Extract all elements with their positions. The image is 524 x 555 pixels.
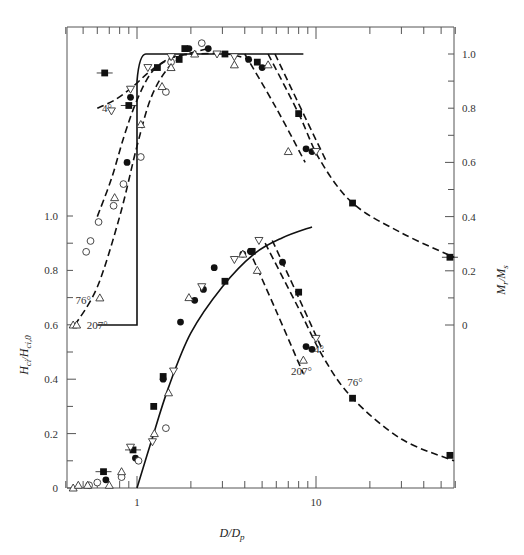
curve-label: 4° <box>314 343 324 355</box>
open-triangle-down-marker <box>144 65 152 72</box>
labels: 11000.20.40.60.81.000.20.40.60.81.04°76°… <box>17 48 510 542</box>
open-circle-marker <box>135 457 142 464</box>
open-triangle-up-marker <box>96 294 104 301</box>
y-tick-label-right: 0 <box>462 319 468 331</box>
open-circle-marker <box>162 425 169 432</box>
open-triangle-up-marker <box>158 83 166 90</box>
x-tick-label: 10 <box>311 496 323 508</box>
curve-label: 207° <box>291 365 312 377</box>
open-triangle-down-marker <box>230 54 238 61</box>
filled-circle-marker <box>247 248 254 255</box>
open-circle-marker <box>110 202 117 209</box>
filled-circle-marker <box>279 259 286 266</box>
filled-square-marker <box>222 278 229 285</box>
filled-square-marker <box>176 56 183 63</box>
y-axis-title-left: Hci/Hci,0 <box>17 335 33 376</box>
filled-square-marker <box>150 403 157 410</box>
open-triangle-up-marker <box>253 266 261 273</box>
filled-square-marker <box>349 395 356 402</box>
plot-frame <box>67 27 454 488</box>
curve-label: 207° <box>87 319 108 331</box>
curve <box>97 49 208 217</box>
filled-circle-marker <box>245 56 252 63</box>
curve <box>268 54 454 257</box>
open-circle-marker <box>87 238 94 245</box>
data-markers <box>69 40 458 491</box>
filled-circle-marker <box>186 45 193 52</box>
filled-circle-marker <box>177 319 184 326</box>
open-triangle-up-marker <box>299 356 307 363</box>
open-circle-marker <box>94 479 101 486</box>
curve <box>275 54 327 162</box>
open-circle-marker <box>198 40 205 47</box>
filled-square-marker <box>154 64 161 71</box>
open-circle-marker <box>137 154 144 161</box>
y-tick-label-left: 0.8 <box>44 264 58 276</box>
filled-circle-marker <box>303 145 310 152</box>
filled-square-marker <box>254 59 261 66</box>
open-triangle-up-marker <box>165 389 173 396</box>
filled-circle-marker <box>124 159 131 166</box>
filled-square-marker <box>295 289 302 296</box>
open-circle-marker <box>95 219 102 226</box>
filled-square-marker <box>295 110 302 117</box>
open-triangle-down-marker <box>255 237 263 244</box>
axis-ticks <box>66 27 456 488</box>
y-tick-label-right: 1.0 <box>462 48 476 60</box>
y-tick-label-left: 0.6 <box>44 319 58 331</box>
open-circle-marker <box>83 248 90 255</box>
y-axis-title-right: Mr/Ms <box>494 265 510 296</box>
open-triangle-up-marker <box>118 468 126 475</box>
open-triangle-up-marker <box>230 61 238 68</box>
curve-label: 4° <box>102 102 112 114</box>
y-tick-label-right: 0.2 <box>462 265 476 277</box>
x-tick-label: 1 <box>134 496 140 508</box>
open-circle-marker <box>120 181 127 188</box>
curves <box>75 49 454 488</box>
open-triangle-up-marker <box>284 148 292 155</box>
filled-circle-marker <box>205 45 212 52</box>
open-triangle-up-marker <box>74 481 82 488</box>
curve-label: 76° <box>347 376 362 388</box>
open-triangle-up-marker <box>111 194 119 201</box>
open-triangle-up-marker <box>185 294 193 301</box>
y-tick-label-left: 0.2 <box>44 428 58 440</box>
y-tick-label-right: 0.4 <box>462 211 476 223</box>
open-triangle-down-marker <box>230 257 238 264</box>
y-tick-label-right: 0.8 <box>462 102 476 114</box>
open-triangle-up-marker <box>264 61 272 68</box>
chart: 11000.20.40.60.81.000.20.40.60.81.04°76°… <box>0 0 524 555</box>
open-triangle-down-marker <box>170 368 178 375</box>
filled-circle-marker <box>211 264 218 271</box>
filled-circle-marker <box>160 376 167 383</box>
y-tick-label-left: 0 <box>53 482 59 494</box>
x-axis-title: D/Dp <box>218 526 245 542</box>
curve-label: 76° <box>75 294 90 306</box>
filled-circle-marker <box>127 94 134 101</box>
filled-square-marker <box>349 200 356 207</box>
open-triangle-down-marker <box>127 86 135 93</box>
filled-square-marker <box>222 51 229 58</box>
y-tick-label-right: 0.6 <box>462 156 476 168</box>
open-triangle-up-marker <box>150 430 158 437</box>
curve <box>137 227 312 488</box>
filled-circle-marker <box>303 343 310 350</box>
y-tick-label-left: 1.0 <box>44 210 58 222</box>
filled-square-marker <box>447 452 454 459</box>
y-tick-label-left: 0.4 <box>44 373 58 385</box>
